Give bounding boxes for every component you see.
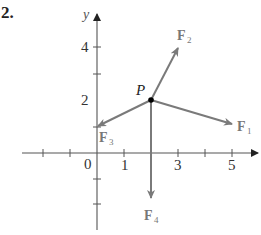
point-p [148,97,154,103]
vector-f3-label: F 3 [99,130,114,147]
x-tick-label-0: 0 [84,156,92,172]
svg-text:4: 4 [154,215,159,225]
svg-text:F: F [144,208,153,223]
x-tick-label-1: 1 [121,157,129,173]
y-tick-label-4: 4 [81,39,89,55]
vector-f2 [151,48,178,100]
svg-text:3: 3 [109,137,114,147]
svg-text:F: F [237,119,246,134]
svg-text:F: F [99,130,108,145]
vector-f1-label: F 1 [237,119,252,136]
y-tick-label-2: 2 [81,92,89,108]
y-axis-label: y [81,7,90,22]
vector-f1 [151,100,232,124]
force-vector-diagram: 2. 0 1 3 5 2 4 y P F 1 F 2 [0,0,261,235]
svg-text:1: 1 [247,126,252,136]
svg-text:2: 2 [187,35,192,45]
problem-number: 2. [1,3,14,22]
point-p-label: P [135,82,145,98]
svg-text:F: F [177,28,186,43]
vector-f3 [98,100,151,126]
vector-f4-label: F 4 [144,208,159,225]
x-tick-label-5: 5 [228,157,236,173]
vector-f2-label: F 2 [177,28,192,45]
x-tick-label-3: 3 [174,157,182,173]
